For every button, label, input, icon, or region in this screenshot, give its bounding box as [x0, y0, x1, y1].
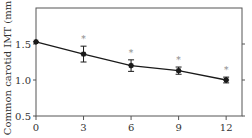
- significance-asterisk: *: [81, 34, 86, 44]
- data-series: ****: [33, 34, 230, 83]
- significance-asterisk: *: [224, 65, 229, 75]
- y-tick-label: 1.0: [15, 75, 31, 86]
- plot-border: [36, 8, 242, 116]
- y-tick-label: 1.5: [15, 39, 31, 50]
- x-axis-ticks: 036912: [33, 116, 233, 133]
- data-point-marker-core: [129, 63, 133, 67]
- data-point-marker-core: [176, 68, 180, 72]
- x-tick-label: 12: [220, 122, 233, 133]
- x-tick-label: 6: [128, 122, 134, 133]
- data-point-marker-core: [81, 52, 85, 56]
- y-tick-label: 0.5: [15, 111, 31, 122]
- data-point-marker-core: [224, 78, 228, 82]
- x-tick-label: 3: [80, 122, 86, 133]
- plot-frame: [36, 8, 242, 116]
- x-tick-label: 0: [33, 122, 39, 133]
- carotid-imt-chart: 0.51.01.5 036912 Common carotid IMT (mm)…: [0, 0, 252, 138]
- significance-asterisk: *: [129, 48, 134, 58]
- data-point-marker-core: [34, 40, 38, 44]
- significance-asterisk: *: [176, 55, 181, 65]
- y-axis-label: Common carotid IMT (mm): [2, 0, 13, 135]
- chart-svg: 0.51.01.5 036912 Common carotid IMT (mm)…: [0, 0, 252, 138]
- x-tick-label: 9: [175, 122, 181, 133]
